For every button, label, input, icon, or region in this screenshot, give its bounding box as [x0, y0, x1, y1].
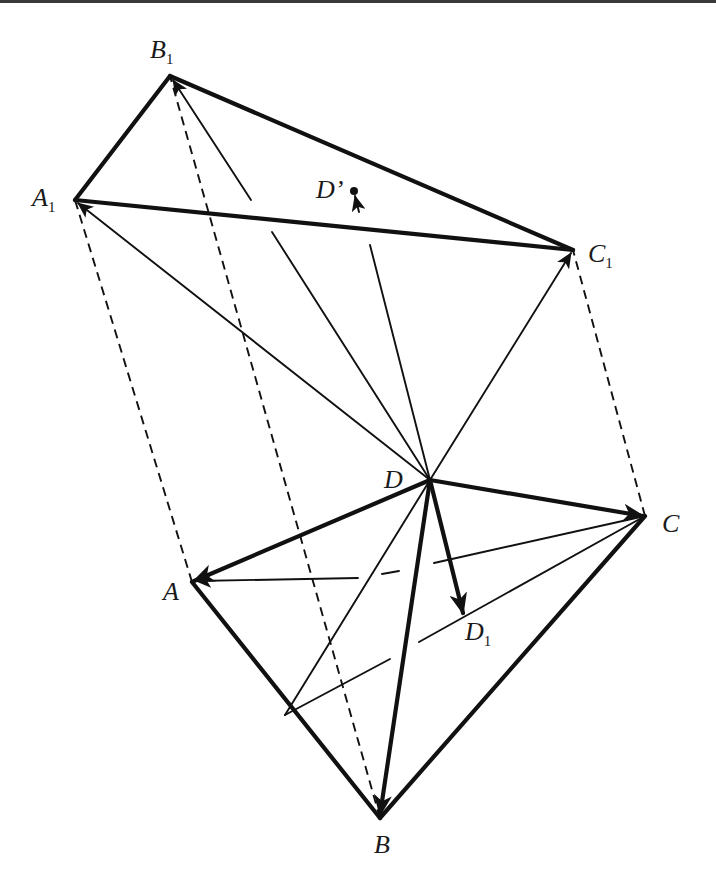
- line-c-a-left: [196, 578, 358, 581]
- edge-a1-c1: [75, 200, 573, 250]
- label-b: B: [374, 830, 390, 859]
- point-dprime: [350, 187, 358, 195]
- translation-lines: [75, 76, 645, 818]
- dashed-line-b-b1: [170, 76, 380, 818]
- point-labels: B1 A1 C1 D’ D C A D1 B: [30, 35, 680, 859]
- dashed-line-c-c1: [573, 250, 645, 516]
- vector-d-b1-upper: [173, 80, 251, 200]
- geometry-diagram: B1 A1 C1 D’ D C A D1 B: [0, 0, 716, 886]
- label-d: D: [383, 465, 403, 494]
- vector-d-dprime-tip: [355, 196, 359, 212]
- label-dprime: D’: [315, 175, 343, 204]
- line-c-a-mid: [382, 571, 399, 574]
- triangle-a1b1c1: [75, 76, 573, 250]
- label-b1: B1: [150, 35, 173, 67]
- vector-d-b: [380, 480, 430, 815]
- vectors-to-upper-triangle: [78, 80, 571, 480]
- label-a1: A1: [30, 183, 55, 215]
- tetrahedron-abcd: [192, 480, 645, 818]
- vector-d-c: [430, 480, 643, 516]
- vector-d-a: [194, 480, 430, 581]
- vector-d-dprime-lower: [370, 245, 430, 480]
- label-d1: D1: [464, 617, 491, 649]
- edge-a1-b1: [75, 76, 170, 200]
- vector-d-b1-lower: [272, 232, 430, 480]
- line-c-a-right: [434, 516, 645, 563]
- vector-d-d1: [430, 480, 463, 613]
- dashed-line-a-a1: [75, 200, 192, 582]
- label-a: A: [161, 577, 179, 606]
- label-c1: C1: [588, 239, 613, 271]
- line-d-midpoint-ab: [285, 480, 430, 715]
- label-c: C: [662, 509, 680, 538]
- edge-a-b: [192, 582, 380, 818]
- vector-d-a1: [78, 203, 430, 480]
- edge-b1-c1: [170, 76, 573, 250]
- vector-d-c1: [430, 253, 571, 480]
